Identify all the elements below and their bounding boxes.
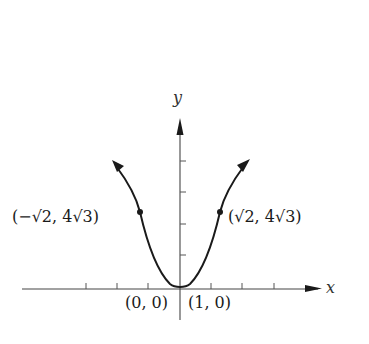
point-left-marker	[137, 209, 143, 215]
point-right-marker	[217, 209, 223, 215]
graph-canvas: y x (−√2, 4√3) (√2, 4√3) (0, 0) (1, 0)	[0, 0, 369, 344]
y-axis-label: y	[172, 88, 183, 107]
point-left-label: (−√2, 4√3)	[12, 207, 99, 226]
one-zero-label: (1, 0)	[188, 293, 231, 312]
x-axis-arrow-icon	[305, 285, 322, 292]
y-axis-arrow-icon	[177, 118, 184, 135]
point-right-label: (√2, 4√3)	[228, 207, 302, 226]
left-arrow-icon	[112, 160, 124, 172]
right-arrow-icon	[237, 159, 250, 172]
x-axis-label: x	[326, 278, 335, 297]
y-ticks	[180, 161, 186, 255]
origin-label: (0, 0)	[125, 293, 168, 312]
